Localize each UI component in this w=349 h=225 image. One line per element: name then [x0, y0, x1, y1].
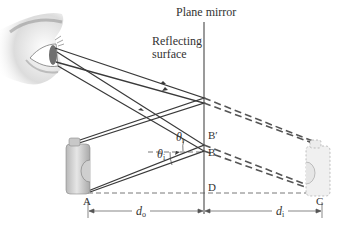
- point-b-label: B: [208, 147, 215, 158]
- d-i-label: di: [276, 205, 284, 219]
- eye-icon: [0, 13, 64, 84]
- plane-mirror-label: Plane mirror: [176, 6, 236, 18]
- point-c-label: C: [316, 196, 323, 207]
- theta-r-subscript: r: [182, 136, 185, 145]
- theta-r-label: θr: [176, 131, 185, 145]
- image-bottle: [306, 140, 330, 196]
- d-o-label: do: [136, 205, 146, 219]
- reflecting-surface-label-line1: Reflecting: [152, 35, 202, 47]
- plane-mirror-diagram: Plane mirror Reflecting surface B′ B D A…: [0, 0, 349, 225]
- point-d-label: D: [208, 182, 216, 193]
- theta-i-subscript: i: [163, 153, 165, 162]
- d-i-subscript: i: [282, 210, 284, 219]
- point-b-prime-label: B′: [208, 130, 218, 141]
- point-a-label: A: [83, 196, 91, 207]
- reflecting-surface-label-line2: surface: [152, 48, 187, 60]
- object-bottle: [66, 138, 90, 194]
- d-o-subscript: o: [142, 210, 146, 219]
- theta-i-label: θi: [157, 148, 165, 162]
- virtual-rays: [204, 98, 322, 193]
